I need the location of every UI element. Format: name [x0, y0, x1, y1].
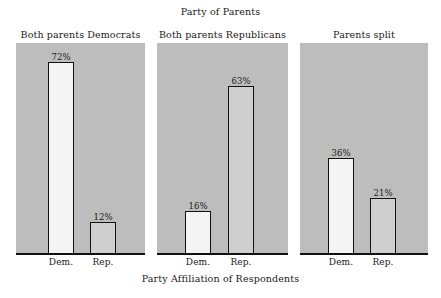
panel-title: Both parents Democrats: [2, 29, 159, 40]
chart-root: Party of Parents Both parents Democrats …: [0, 0, 441, 298]
x-axis-line: [16, 253, 145, 255]
panel-parents-split: Parents split 36% Dem. 21% Rep.: [300, 43, 428, 255]
tick-label-rep: Rep.: [230, 257, 251, 267]
tick-label-rep: Rep.: [372, 257, 393, 267]
x-axis-line: [300, 253, 428, 255]
bar-value-label: 36%: [331, 148, 350, 158]
bar-value-label: 21%: [373, 188, 392, 198]
plot-area: 72% Dem. 12% Rep.: [16, 43, 145, 255]
bar-value-label: 72%: [51, 52, 70, 62]
bar-dem[interactable]: 72% Dem.: [48, 62, 74, 254]
panel-both-parents-republicans: Both parents Republicans 16% Dem. 63% Re…: [157, 43, 288, 255]
bar-rep[interactable]: 21% Rep.: [370, 198, 396, 254]
tick-label-dem: Dem.: [49, 257, 73, 267]
plot-area: 16% Dem. 63% Rep.: [157, 43, 288, 255]
x-axis-title: Party Affiliation of Respondents: [0, 273, 441, 284]
x-axis-line: [157, 253, 288, 255]
tick-label-rep: Rep.: [92, 257, 113, 267]
tick-label-dem: Dem.: [329, 257, 353, 267]
panel-both-parents-democrats: Both parents Democrats 72% Dem. 12% Rep.: [16, 43, 145, 255]
plot-area: 36% Dem. 21% Rep.: [300, 43, 428, 255]
bar-value-label: 16%: [188, 201, 207, 211]
bar-rep[interactable]: 63% Rep.: [228, 86, 254, 254]
bar-value-label: 12%: [93, 212, 112, 222]
bar-dem[interactable]: 36% Dem.: [328, 158, 354, 254]
panel-title: Parents split: [286, 29, 441, 40]
panel-title: Both parents Republicans: [143, 29, 302, 40]
bar-rep[interactable]: 12% Rep.: [90, 222, 116, 254]
tick-label-dem: Dem.: [186, 257, 210, 267]
chart-title: Party of Parents: [0, 6, 441, 17]
bar-dem[interactable]: 16% Dem.: [185, 211, 211, 254]
bar-value-label: 63%: [231, 76, 250, 86]
